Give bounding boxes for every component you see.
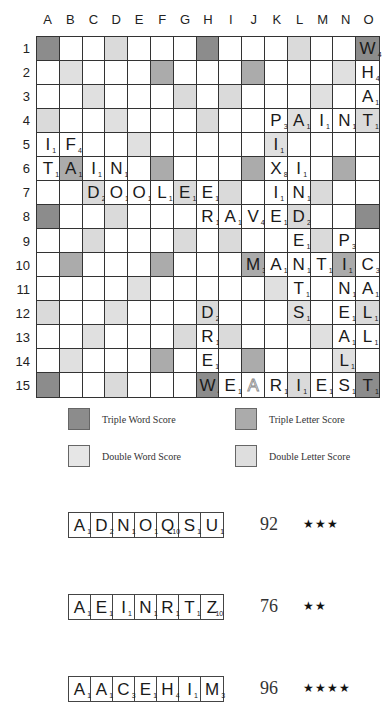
board-cell-m5[interactable] bbox=[311, 133, 334, 157]
board-cell-n14[interactable]: L1 bbox=[333, 349, 356, 373]
board-cell-h1[interactable] bbox=[197, 37, 220, 61]
board-cell-a1[interactable] bbox=[37, 37, 60, 61]
board-cell-n3[interactable] bbox=[333, 85, 356, 109]
board-cell-k12[interactable] bbox=[265, 301, 288, 325]
board-cell-m9[interactable] bbox=[311, 229, 334, 253]
board-cell-b7[interactable] bbox=[60, 181, 83, 205]
board-cell-l1[interactable] bbox=[288, 37, 311, 61]
board-cell-g12[interactable] bbox=[174, 301, 197, 325]
board-cell-n6[interactable] bbox=[333, 157, 356, 181]
board-cell-l6[interactable]: I1 bbox=[288, 157, 311, 181]
board-cell-i1[interactable] bbox=[219, 37, 242, 61]
board-cell-i4[interactable] bbox=[219, 109, 242, 133]
board-cell-h4[interactable] bbox=[197, 109, 220, 133]
board-cell-a14[interactable] bbox=[37, 349, 60, 373]
board-cell-e11[interactable] bbox=[128, 277, 151, 301]
board-cell-k6[interactable]: X8 bbox=[265, 157, 288, 181]
board-cell-h6[interactable] bbox=[197, 157, 220, 181]
board-cell-d4[interactable] bbox=[105, 109, 128, 133]
board-cell-i13[interactable] bbox=[219, 325, 242, 349]
board-cell-c7[interactable]: D2 bbox=[83, 181, 106, 205]
board-cell-n1[interactable] bbox=[333, 37, 356, 61]
board-cell-d5[interactable] bbox=[105, 133, 128, 157]
board-cell-j12[interactable] bbox=[242, 301, 265, 325]
board-cell-g15[interactable] bbox=[174, 373, 197, 397]
board-cell-k7[interactable]: I1 bbox=[265, 181, 288, 205]
board-cell-c14[interactable] bbox=[83, 349, 106, 373]
board-cell-m7[interactable] bbox=[311, 181, 334, 205]
board-cell-j6[interactable] bbox=[242, 157, 265, 181]
board-cell-g10[interactable] bbox=[174, 253, 197, 277]
board-cell-h8[interactable]: R1 bbox=[197, 205, 220, 229]
board-cell-l3[interactable] bbox=[288, 85, 311, 109]
board-cell-c5[interactable] bbox=[83, 133, 106, 157]
board-cell-f10[interactable] bbox=[151, 253, 174, 277]
board-cell-d3[interactable] bbox=[105, 85, 128, 109]
board-cell-c3[interactable] bbox=[83, 85, 106, 109]
board-cell-h5[interactable] bbox=[197, 133, 220, 157]
board-cell-m6[interactable] bbox=[311, 157, 334, 181]
board-cell-c6[interactable]: I1 bbox=[83, 157, 106, 181]
board-cell-j11[interactable] bbox=[242, 277, 265, 301]
board-cell-o10[interactable]: C3 bbox=[356, 253, 379, 277]
board-cell-e5[interactable] bbox=[128, 133, 151, 157]
board-cell-o6[interactable] bbox=[356, 157, 379, 181]
board-cell-l7[interactable]: N1 bbox=[288, 181, 311, 205]
board-cell-h10[interactable] bbox=[197, 253, 220, 277]
board-cell-j15[interactable]: A bbox=[242, 373, 265, 397]
board-cell-l9[interactable]: E1 bbox=[288, 229, 311, 253]
board-cell-k4[interactable]: P3 bbox=[265, 109, 288, 133]
board-cell-d15[interactable] bbox=[105, 373, 128, 397]
rack-tile[interactable]: H4 bbox=[157, 677, 179, 701]
board-cell-l10[interactable]: N1 bbox=[288, 253, 311, 277]
board-cell-n12[interactable]: E1 bbox=[333, 301, 356, 325]
board-cell-m12[interactable] bbox=[311, 301, 334, 325]
board-cell-j13[interactable] bbox=[242, 325, 265, 349]
board-cell-e15[interactable] bbox=[128, 373, 151, 397]
board-cell-k9[interactable] bbox=[265, 229, 288, 253]
board-cell-f5[interactable] bbox=[151, 133, 174, 157]
rack-tile[interactable]: M3 bbox=[201, 677, 223, 701]
board-cell-k1[interactable] bbox=[265, 37, 288, 61]
board-cell-e6[interactable] bbox=[128, 157, 151, 181]
board-cell-e4[interactable] bbox=[128, 109, 151, 133]
board-cell-d2[interactable] bbox=[105, 61, 128, 85]
board-cell-m4[interactable]: I1 bbox=[311, 109, 334, 133]
board-cell-o3[interactable]: A1 bbox=[356, 85, 379, 109]
board-cell-n5[interactable] bbox=[333, 133, 356, 157]
board-cell-i9[interactable] bbox=[219, 229, 242, 253]
board-cell-e2[interactable] bbox=[128, 61, 151, 85]
board-cell-d13[interactable] bbox=[105, 325, 128, 349]
board-cell-e7[interactable]: O1 bbox=[128, 181, 151, 205]
board-cell-i2[interactable] bbox=[219, 61, 242, 85]
board-cell-g7[interactable]: E1 bbox=[174, 181, 197, 205]
board-cell-h11[interactable] bbox=[197, 277, 220, 301]
board-cell-g2[interactable] bbox=[174, 61, 197, 85]
board-cell-o4[interactable]: T1 bbox=[356, 109, 379, 133]
board-cell-o7[interactable] bbox=[356, 181, 379, 205]
board-cell-c15[interactable] bbox=[83, 373, 106, 397]
rack-tile[interactable]: C3 bbox=[113, 677, 135, 701]
board-cell-a15[interactable] bbox=[37, 373, 60, 397]
board-cell-d9[interactable] bbox=[105, 229, 128, 253]
board-cell-g1[interactable] bbox=[174, 37, 197, 61]
board-cell-i6[interactable] bbox=[219, 157, 242, 181]
board-cell-n15[interactable]: S1 bbox=[333, 373, 356, 397]
board-cell-n7[interactable] bbox=[333, 181, 356, 205]
rack-tile[interactable]: A1 bbox=[69, 595, 91, 619]
board-cell-f4[interactable] bbox=[151, 109, 174, 133]
board-cell-e10[interactable] bbox=[128, 253, 151, 277]
board-cell-e12[interactable] bbox=[128, 301, 151, 325]
board-cell-h3[interactable] bbox=[197, 85, 220, 109]
board-cell-k15[interactable]: R1 bbox=[265, 373, 288, 397]
board-cell-b15[interactable] bbox=[60, 373, 83, 397]
board-cell-k13[interactable] bbox=[265, 325, 288, 349]
board-cell-o5[interactable] bbox=[356, 133, 379, 157]
board-cell-n8[interactable] bbox=[333, 205, 356, 229]
board-cell-g3[interactable] bbox=[174, 85, 197, 109]
board-cell-k10[interactable]: A1 bbox=[265, 253, 288, 277]
board-cell-c1[interactable] bbox=[83, 37, 106, 61]
rack-tile[interactable]: Z10 bbox=[201, 595, 223, 619]
board-cell-o11[interactable]: A1 bbox=[356, 277, 379, 301]
board-cell-d10[interactable] bbox=[105, 253, 128, 277]
